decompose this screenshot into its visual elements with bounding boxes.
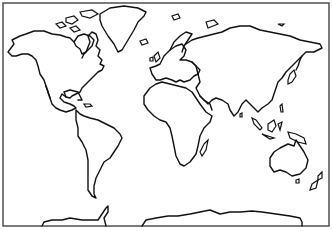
region-baja <box>46 86 50 98</box>
island-ireland <box>150 57 153 61</box>
island-new-zealand-south <box>310 180 318 190</box>
island-sulawesi <box>278 122 282 130</box>
island-cuba <box>84 104 92 107</box>
region-africa <box>144 82 212 166</box>
island-arctic-4 <box>70 26 80 32</box>
region-south-america <box>76 110 122 198</box>
region-antarctica-east <box>142 210 302 226</box>
map-frame <box>3 3 329 226</box>
island-sumatra <box>252 118 262 130</box>
region-north-america <box>8 31 104 112</box>
island-sri-lanka <box>240 113 242 117</box>
island-borneo <box>268 120 276 132</box>
island-tasmania <box>296 179 299 183</box>
island-new-zealand-north <box>318 172 322 180</box>
island-japan <box>288 70 296 84</box>
island-arctic-1 <box>56 22 66 28</box>
island-svalbard <box>172 14 180 20</box>
island-arctic-3 <box>80 10 98 18</box>
island-philippines <box>280 104 283 112</box>
island-iceland <box>140 39 148 45</box>
island-arctic-2 <box>66 16 78 24</box>
region-arabia <box>200 96 212 110</box>
island-madagascar <box>200 140 208 156</box>
island-new-siberian <box>278 24 284 26</box>
region-australia <box>270 140 308 176</box>
island-java <box>262 134 274 139</box>
region-asia <box>186 26 322 116</box>
region-greenland <box>100 6 146 52</box>
world-map <box>0 0 332 231</box>
island-britain <box>154 52 160 62</box>
region-antarctica-west <box>42 206 108 226</box>
island-novaya-zemlya <box>206 20 218 28</box>
